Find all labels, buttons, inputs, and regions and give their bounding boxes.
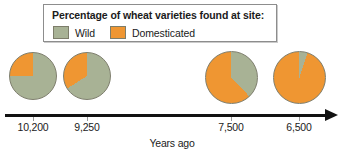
axis-tick-label-7500: 7,500 [218,121,243,133]
axis-tick-label-9250: 9,250 [74,121,99,133]
legend-swatch-wild [53,26,69,39]
axis-tick-label-10200: 10,200 [18,121,49,133]
axis-caption: Years ago [149,137,194,149]
legend-swatch-domesticated [110,26,126,39]
pie-chart-10200 [9,52,57,100]
legend-title: Percentage of wheat varieties found at s… [52,9,264,21]
legend-box: Percentage of wheat varieties found at s… [43,4,277,42]
pie-chart-7500 [205,51,258,104]
timeline-axis-line [5,114,327,117]
legend-label-domesticated: Domesticated [132,27,195,39]
pie-chart-6500 [273,51,326,104]
legend-label-wild: Wild [75,27,95,39]
right-arrow-icon [325,109,338,121]
legend-entry-wild: Wild [53,26,95,39]
legend-entry-domesticated: Domesticated [110,26,195,39]
pie-chart-9250 [63,52,111,100]
axis-tick-label-6500: 6,500 [286,121,311,133]
